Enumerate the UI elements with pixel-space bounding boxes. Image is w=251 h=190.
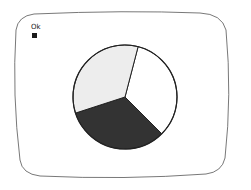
legend-label: Ok bbox=[31, 24, 41, 31]
pie-chart bbox=[73, 45, 177, 149]
legend-swatch-icon bbox=[32, 33, 37, 38]
